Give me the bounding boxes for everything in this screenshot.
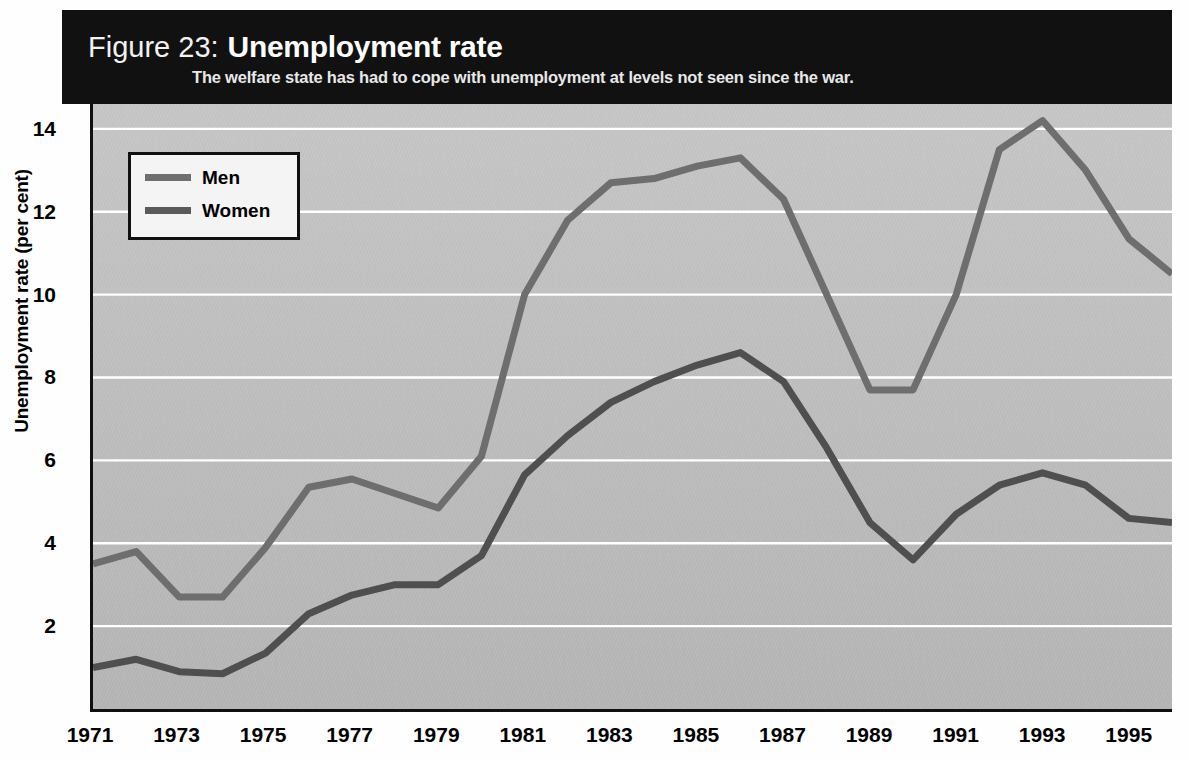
legend-item-men: Men xyxy=(145,168,240,187)
x-tick-label: 1985 xyxy=(673,723,720,747)
chart-legend: Men Women xyxy=(128,152,300,240)
figure-unemployment-rate: Figure 23:Unemployment rate The welfare … xyxy=(0,0,1189,760)
x-tick-label: 1989 xyxy=(846,723,893,747)
y-tick-label: 8 xyxy=(16,365,56,389)
x-tick-label: 1979 xyxy=(413,723,460,747)
legend-swatch-women xyxy=(145,207,191,214)
legend-label-men: Men xyxy=(202,168,240,187)
y-tick-label: 4 xyxy=(16,531,56,555)
y-tick-label: 12 xyxy=(16,200,56,224)
x-tick-label: 1995 xyxy=(1105,723,1152,747)
x-tick-label: 1981 xyxy=(499,723,546,747)
figure-header-band: Figure 23:Unemployment rate The welfare … xyxy=(62,10,1172,104)
page-title: Unemployment rate xyxy=(228,30,503,63)
legend-label-women: Women xyxy=(202,201,270,220)
figure-number: Figure 23: xyxy=(88,31,219,63)
x-tick-label: 1971 xyxy=(67,723,114,747)
y-tick-label: 2 xyxy=(16,614,56,638)
figure-subtitle: The welfare state has had to cope with u… xyxy=(192,68,854,87)
x-tick-label: 1977 xyxy=(326,723,373,747)
x-tick-label: 1987 xyxy=(759,723,806,747)
x-tick-label: 1983 xyxy=(586,723,633,747)
legend-swatch-men xyxy=(145,174,191,181)
x-tick-label: 1993 xyxy=(1019,723,1066,747)
y-tick-label: 6 xyxy=(16,448,56,472)
legend-item-women: Women xyxy=(145,201,270,220)
x-tick-label: 1973 xyxy=(153,723,200,747)
x-tick-label: 1991 xyxy=(932,723,979,747)
y-tick-label: 14 xyxy=(16,117,56,141)
y-tick-label: 10 xyxy=(16,283,56,307)
figure-title-line: Figure 23:Unemployment rate xyxy=(88,30,503,64)
x-tick-label: 1975 xyxy=(240,723,287,747)
